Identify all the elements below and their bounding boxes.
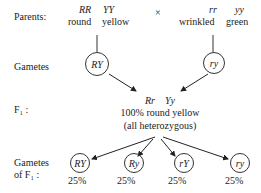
parent2-gamete-allele: ry (210, 58, 218, 69)
cross-symbol: × (155, 8, 161, 18)
f1-gamete-circle-4: ry (230, 153, 250, 173)
f1-gamete-percent-1: 25% (68, 176, 86, 186)
parent2-phenotype-r: wrinkled (179, 17, 215, 27)
parent1-genotype-y: YY (103, 5, 114, 15)
f1-gametes-label-line1: Gametes (14, 158, 49, 168)
parent1-phenotype-y: yellow (102, 17, 129, 27)
parents-label: Parents: (14, 12, 46, 22)
parent1-gamete-circle: RY (85, 52, 109, 76)
f1-gamete-allele-3: rY (179, 158, 188, 169)
parent1-phenotype-r: round (68, 17, 91, 27)
f1-gamete-percent-4: 25% (225, 176, 243, 186)
f1-phenotype: 100% round yellow (121, 108, 200, 118)
f1-gamete-allele-1: RY (74, 158, 86, 169)
parent2-gamete-circle: ry (203, 52, 225, 74)
parent2-genotype-r: rr (209, 5, 217, 15)
f1-genotype-y: Yy (165, 96, 175, 106)
f1-gametes-label-line2: of F₁ : (14, 170, 39, 180)
f1-label: F₁ : (14, 105, 28, 115)
f1-gamete-allele-2: Ry (129, 158, 139, 169)
f1-gamete-circle-2: Ry (124, 153, 144, 173)
f1-gamete-circle-1: RY (70, 153, 90, 173)
parent1-gamete-allele: RY (91, 59, 103, 70)
parent2-phenotype-y: green (226, 17, 248, 27)
f1-note: (all heterozygous) (124, 121, 196, 131)
f1-gamete-percent-3: 25% (168, 176, 186, 186)
f1-gamete-percent-2: 25% (117, 176, 135, 186)
parent2-genotype-y: yy (235, 5, 244, 15)
f1-genotype-r: Rr (145, 96, 155, 106)
f1-gamete-allele-4: ry (236, 158, 244, 169)
gametes-label: Gametes (14, 62, 49, 72)
parent1-genotype-r: RR (79, 5, 91, 15)
f1-gamete-circle-3: rY (174, 153, 194, 173)
